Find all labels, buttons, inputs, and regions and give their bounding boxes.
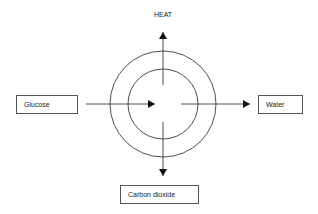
carbon-dioxide-label: Carbon dioxide xyxy=(128,191,175,198)
carbon-dioxide-box: Carbon dioxide xyxy=(120,185,199,204)
heat-label: HEAT xyxy=(150,11,176,18)
diagram-canvas: HEAT Glucose Water Carbon dioxide xyxy=(0,0,318,214)
glucose-label: Glucose xyxy=(24,101,50,108)
glucose-box: Glucose xyxy=(16,95,78,114)
water-box: Water xyxy=(258,95,303,114)
water-label: Water xyxy=(266,101,284,108)
